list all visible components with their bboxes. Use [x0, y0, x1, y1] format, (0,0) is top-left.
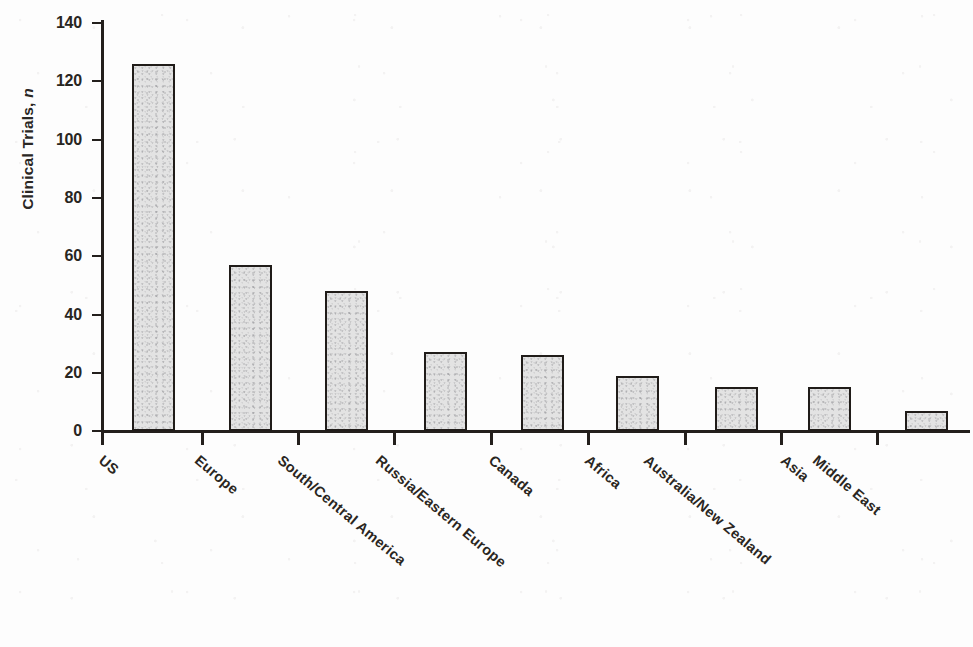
- x-tick-mark-1: [201, 433, 204, 445]
- y-tick-label-80: 80: [36, 189, 82, 207]
- y-tick-label-120: 120: [36, 72, 82, 90]
- x-category-label-middle-east: Middle East: [810, 452, 885, 518]
- y-axis-tick-labels: 140 120 100 80 60 40 20 0: [36, 0, 82, 647]
- x-category-label-canada: Canada: [486, 452, 538, 499]
- x-category-label-europe: Europe: [192, 452, 242, 498]
- x-tick-mark-8: [876, 433, 879, 445]
- bar-south-central-america: [325, 291, 368, 431]
- y-tick-label-100: 100: [36, 131, 82, 149]
- y-tick-label-60: 60: [36, 247, 82, 265]
- figure-canvas: Clinical Trials, n 140 120 100 80 60 40 …: [0, 0, 973, 647]
- bar-europe: [229, 265, 272, 431]
- y-axis-title-italic-n: n: [19, 88, 36, 98]
- y-tick-label-0: 0: [36, 422, 82, 440]
- bar-africa: [616, 376, 659, 431]
- bar-russia-eastern-europe: [424, 352, 467, 431]
- bar-australia-new-zealand: [715, 387, 758, 431]
- bar-canada: [521, 355, 564, 431]
- x-category-label-australia-new-zealand: Australia/New Zealand: [641, 452, 775, 568]
- y-tick-label-40: 40: [36, 306, 82, 324]
- x-category-label-africa: Africa: [582, 452, 625, 492]
- x-tick-mark-7: [780, 433, 783, 445]
- x-category-label-us: US: [96, 452, 122, 478]
- bar-chart: Clinical Trials, n 140 120 100 80 60 40 …: [0, 0, 973, 647]
- y-axis-title: Clinical Trials, n: [19, 29, 37, 269]
- bar-asia: [808, 387, 851, 431]
- bar-us: [132, 64, 175, 431]
- bar-middle-east: [905, 411, 948, 431]
- y-tick-label-20: 20: [36, 364, 82, 382]
- x-tick-mark-6: [684, 433, 687, 445]
- x-tick-mark-4: [490, 433, 493, 445]
- x-tick-mark-2: [297, 433, 300, 445]
- y-axis-title-text: Clinical Trials,: [19, 102, 36, 209]
- y-tick-label-140: 140: [36, 14, 82, 32]
- y-axis-line: [101, 20, 104, 433]
- x-category-label-asia: Asia: [778, 452, 813, 485]
- x-tick-mark-0: [101, 433, 104, 445]
- x-tick-mark-3: [393, 433, 396, 445]
- x-tick-mark-5: [587, 433, 590, 445]
